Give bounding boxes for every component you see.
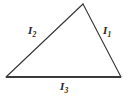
triangle-edge-right-side bbox=[83, 4, 121, 77]
side-label-i3-symbol: I bbox=[60, 80, 64, 92]
side-label-i2-symbol: I bbox=[28, 24, 32, 36]
side-label-i1-subscript: 1 bbox=[108, 30, 112, 39]
triangle-edge-left-side bbox=[6, 4, 83, 77]
side-label-i2-subscript: 2 bbox=[33, 30, 37, 39]
side-label-i1-symbol: I bbox=[103, 24, 107, 36]
side-label-i2: I2 bbox=[28, 25, 36, 36]
side-label-i1: I1 bbox=[103, 25, 111, 36]
side-label-i3: I3 bbox=[60, 81, 68, 92]
side-label-i3-subscript: 3 bbox=[65, 86, 69, 95]
triangle-figure: I1 I2 I3 bbox=[0, 0, 127, 97]
